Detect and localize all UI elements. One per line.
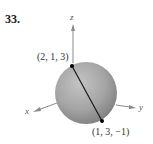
x-axis-label: x (25, 106, 29, 116)
point-endpoint-2 (100, 119, 104, 123)
z-axis (71, 24, 75, 63)
problem-number: 33. (5, 12, 20, 27)
x-axis (33, 103, 57, 112)
sphere-diagram: 33. z x y (2, 1, 3) (1, 3, −1) (0, 0, 153, 144)
point-endpoint-1 (70, 64, 74, 68)
point-label-2: (1, 3, −1) (92, 126, 129, 137)
sphere (55, 62, 117, 124)
point-label-1: (2, 1, 3) (37, 51, 69, 62)
y-axis (116, 105, 136, 109)
diagram-canvas (0, 0, 153, 144)
z-axis-label: z (70, 12, 74, 22)
y-axis-label: y (139, 102, 143, 112)
